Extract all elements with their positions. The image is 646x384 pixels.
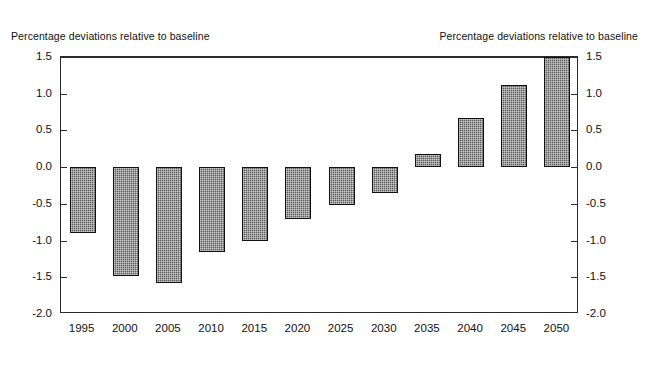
y-tick-mark-right bbox=[571, 241, 577, 242]
y-tick-label-right: -2.0 bbox=[586, 307, 606, 319]
x-tick-label-2000: 2000 bbox=[112, 322, 138, 334]
y-tick-mark-right bbox=[571, 204, 577, 205]
y-tick-mark-right bbox=[571, 167, 577, 168]
x-tick-label-2020: 2020 bbox=[285, 322, 311, 334]
y-tick-label-right: -1.0 bbox=[586, 234, 606, 246]
y-tick-mark-left bbox=[61, 94, 67, 95]
y-tick-label-right: 0.5 bbox=[586, 123, 602, 135]
x-tick-label-2030: 2030 bbox=[371, 322, 397, 334]
x-tick-label-2035: 2035 bbox=[414, 322, 440, 334]
y-tick-label-left: 0.5 bbox=[36, 123, 52, 135]
y-tick-label-left: -2.0 bbox=[32, 307, 52, 319]
bar-2040 bbox=[458, 118, 484, 167]
y-tick-label-left: -1.5 bbox=[32, 270, 52, 282]
y-tick-mark-left bbox=[61, 204, 67, 205]
bar-2045 bbox=[501, 85, 527, 167]
x-tick-label-2005: 2005 bbox=[155, 322, 181, 334]
right-axis-caption: Percentage deviations relative to baseli… bbox=[439, 30, 638, 42]
y-tick-mark-left bbox=[61, 130, 67, 131]
y-tick-mark-left bbox=[61, 277, 67, 278]
x-tick-label-2015: 2015 bbox=[241, 322, 267, 334]
bar-2000 bbox=[113, 167, 139, 276]
bar-2050 bbox=[544, 57, 570, 167]
bar-2015 bbox=[242, 167, 268, 240]
y-tick-label-right: -1.5 bbox=[586, 270, 606, 282]
x-tick-label-2050: 2050 bbox=[544, 322, 570, 334]
bar-2030 bbox=[372, 167, 398, 193]
y-tick-label-left: 0.0 bbox=[36, 160, 52, 172]
y-tick-mark-right bbox=[571, 277, 577, 278]
x-tick-label-2040: 2040 bbox=[457, 322, 483, 334]
x-tick-label-2045: 2045 bbox=[500, 322, 526, 334]
y-tick-label-left: 1.0 bbox=[36, 87, 52, 99]
x-tick-label-2025: 2025 bbox=[328, 322, 354, 334]
bar-2025 bbox=[329, 167, 355, 205]
y-tick-label-left: 1.5 bbox=[36, 50, 52, 62]
x-tick-label-1995: 1995 bbox=[69, 322, 95, 334]
y-tick-label-left: -1.0 bbox=[32, 234, 52, 246]
left-axis-caption: Percentage deviations relative to baseli… bbox=[11, 30, 210, 42]
bar-2035 bbox=[415, 154, 441, 167]
x-tick-label-2010: 2010 bbox=[198, 322, 224, 334]
y-tick-mark-left bbox=[61, 167, 67, 168]
y-tick-label-right: 1.0 bbox=[586, 87, 602, 99]
y-tick-label-right: 1.5 bbox=[586, 50, 602, 62]
y-tick-mark-right bbox=[571, 130, 577, 131]
zero-baseline bbox=[61, 57, 577, 58]
bar-2010 bbox=[199, 167, 225, 251]
chart-figure: Percentage deviations relative to baseli… bbox=[0, 0, 646, 384]
plot-area bbox=[60, 56, 578, 313]
bar-2020 bbox=[285, 167, 311, 218]
y-tick-label-left: -0.5 bbox=[32, 197, 52, 209]
y-tick-mark-left bbox=[61, 241, 67, 242]
y-tick-mark-right bbox=[571, 94, 577, 95]
bar-1995 bbox=[70, 167, 96, 233]
bar-2005 bbox=[156, 167, 182, 283]
y-tick-label-right: 0.0 bbox=[586, 160, 602, 172]
y-tick-label-right: -0.5 bbox=[586, 197, 606, 209]
